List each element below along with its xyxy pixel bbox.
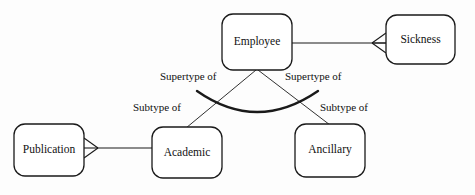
crowsfoot-icon-publication	[84, 138, 98, 158]
relationship-label-supertype-of-right: Supertype of	[285, 71, 342, 82]
entity-label-employee: Employee	[222, 36, 292, 48]
crowsfoot-icon-sickness	[372, 33, 386, 53]
diagram-canvas: Employee Sickness Publication Academic A…	[0, 0, 475, 195]
entity-label-academic: Academic	[152, 147, 222, 159]
diagram-svg	[0, 0, 475, 195]
entity-label-sickness: Sickness	[386, 34, 455, 46]
relationship-label-subtype-of-right: Subtype of	[320, 102, 368, 113]
relationship-label-supertype-of-left: Supertype of	[160, 71, 217, 82]
entity-label-ancillary: Ancillary	[295, 144, 365, 156]
entity-label-publication: Publication	[14, 144, 84, 156]
connector-subtype-arc[interactable]	[197, 91, 318, 112]
relationship-label-subtype-of-left: Subtype of	[133, 102, 181, 113]
